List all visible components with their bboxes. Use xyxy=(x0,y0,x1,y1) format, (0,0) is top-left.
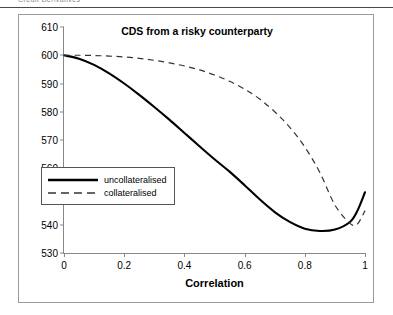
x-axis-title: Correlation xyxy=(185,277,244,289)
legend-label-collateralised: collateralised xyxy=(104,188,157,198)
x-tick-mark xyxy=(124,253,125,257)
x-tick-label: 0 xyxy=(61,260,67,271)
x-tick-label: 1 xyxy=(362,260,368,271)
x-tick-label: 0.2 xyxy=(117,260,131,271)
legend-item: uncollateralised xyxy=(47,173,167,186)
legend-item: collateralised xyxy=(47,186,167,199)
y-tick-mark xyxy=(60,111,64,112)
x-tick-label: 0.4 xyxy=(177,260,191,271)
y-tick-label: 530 xyxy=(41,248,58,259)
x-tick-mark xyxy=(365,253,366,257)
legend-swatch-dashed xyxy=(47,187,99,198)
y-tick-mark xyxy=(60,83,64,84)
chart-legend: uncollateralised collateralised xyxy=(41,167,175,205)
y-tick-label: 610 xyxy=(41,22,58,33)
y-tick-label: 540 xyxy=(41,219,58,230)
x-tick-label: 0.8 xyxy=(298,260,312,271)
y-tick-label: 600 xyxy=(41,50,58,61)
running-head-text: Credit Derivatives xyxy=(18,0,80,3)
y-tick-label: 590 xyxy=(41,78,58,89)
y-tick-mark xyxy=(60,224,64,225)
figure-frame: CDS from a risky counterparty 5305405505… xyxy=(18,14,374,303)
x-tick-mark xyxy=(64,253,65,257)
chart-lines xyxy=(64,27,365,253)
x-tick-mark xyxy=(245,253,246,257)
header-divider xyxy=(0,7,393,8)
y-tick-label: 570 xyxy=(41,135,58,146)
y-tick-mark xyxy=(60,55,64,56)
running-header: Credit Derivatives xyxy=(0,0,393,9)
y-tick-label: 580 xyxy=(41,106,58,117)
x-tick-mark xyxy=(184,253,185,257)
y-tick-mark xyxy=(60,140,64,141)
legend-swatch-solid xyxy=(47,174,99,185)
x-tick-label: 0.6 xyxy=(238,260,252,271)
y-tick-mark xyxy=(60,27,64,28)
plot-area: 530540550560570580590600610 00.20.40.60.… xyxy=(63,27,365,254)
legend-label-uncollateralised: uncollateralised xyxy=(104,175,167,185)
x-tick-mark xyxy=(305,253,306,257)
